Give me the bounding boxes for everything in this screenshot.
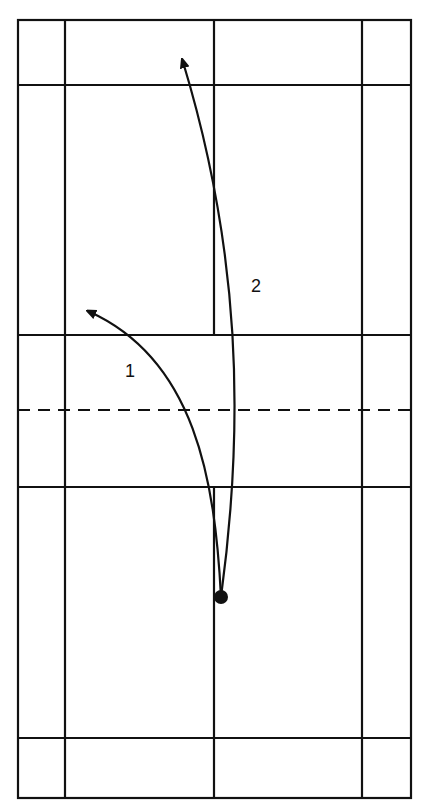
player-position-dot [214, 590, 228, 604]
shot-2-arrow [183, 62, 235, 597]
shot-1-arrow [90, 312, 221, 597]
shot-2-label: 2 [251, 276, 261, 296]
badminton-court-diagram: 12 [0, 0, 430, 810]
shot-1-label: 1 [125, 361, 135, 381]
shot-trajectories: 12 [90, 62, 261, 597]
court-lines [18, 20, 411, 798]
